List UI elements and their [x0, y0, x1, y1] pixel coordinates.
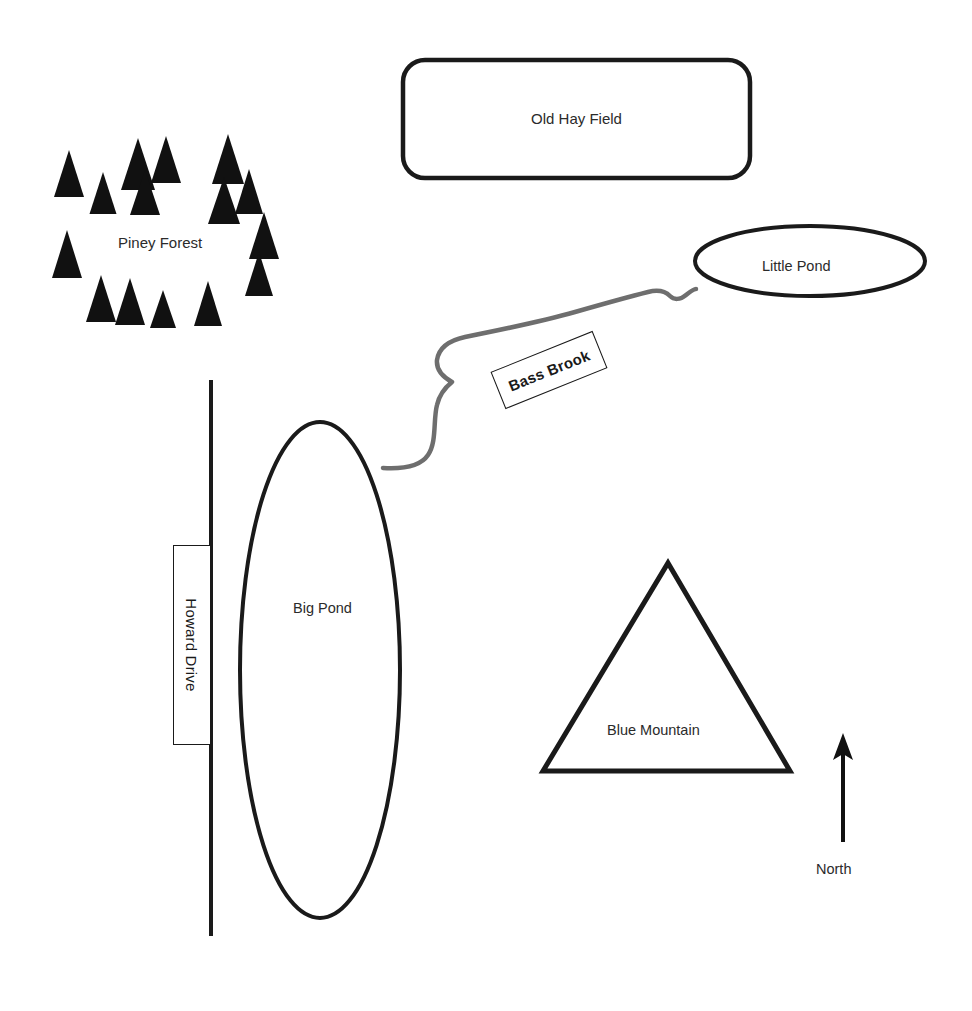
blue-mountain-label: Blue Mountain — [607, 723, 700, 738]
tree-icon — [212, 134, 244, 184]
old-hay-field-label: Old Hay Field — [403, 111, 750, 126]
tree-icon — [121, 138, 155, 190]
tree-icon — [194, 281, 222, 326]
tree-icon — [115, 278, 145, 325]
north-arrow-icon[interactable] — [833, 733, 853, 842]
tree-icon — [150, 290, 176, 328]
big-pond-shape[interactable] — [240, 422, 400, 918]
piney-forest-label: Piney Forest — [118, 235, 202, 250]
tree-icon — [86, 275, 116, 322]
map-vector-layer — [0, 0, 972, 1011]
howard-drive-label-box[interactable]: Howard Drive — [173, 545, 211, 745]
howard-drive-label: Howard Drive — [184, 598, 201, 691]
tree-icon — [151, 136, 181, 183]
tree-icon — [90, 172, 117, 214]
north-label: North — [816, 862, 851, 877]
tree-icon — [249, 212, 279, 259]
piney-forest-trees[interactable] — [52, 134, 279, 328]
little-pond-label: Little Pond — [762, 259, 831, 274]
tree-icon — [52, 230, 82, 278]
blue-mountain-shape[interactable] — [543, 563, 790, 771]
tree-icon — [208, 177, 240, 224]
tree-icon — [54, 150, 84, 197]
map-canvas: Old Hay Field Piney Forest Little Pond B… — [0, 0, 972, 1011]
big-pond-label: Big Pond — [293, 601, 352, 616]
